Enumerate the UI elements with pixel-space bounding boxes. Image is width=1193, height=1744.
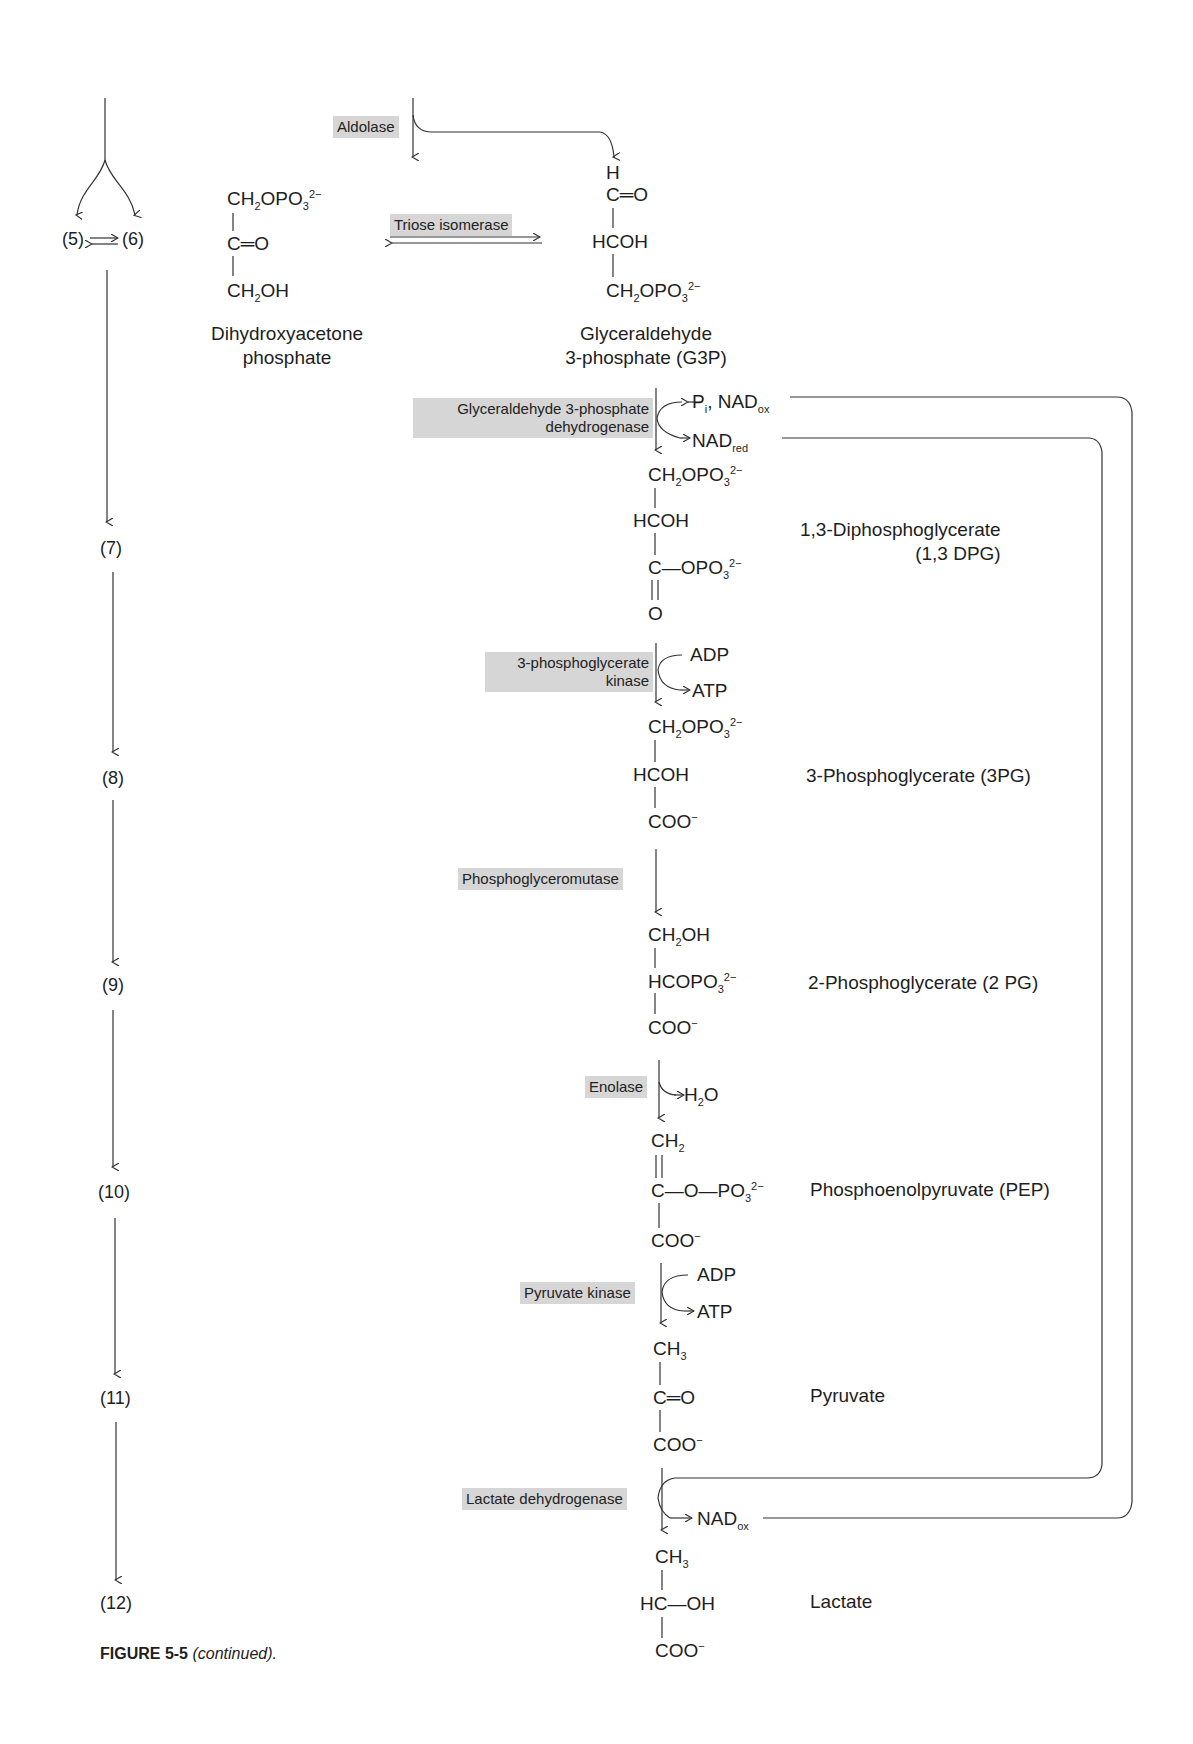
dhap-ch2oh: CH2OH <box>227 280 289 302</box>
g3p-name: Glyceraldehyde 3-phosphate (G3P) <box>548 322 744 370</box>
pep-coo: COO− <box>651 1230 701 1252</box>
lactate-name: Lactate <box>810 1590 872 1614</box>
pyruvate-name: Pyruvate <box>810 1384 885 1408</box>
pep-c-o-po3: C—O—PO32− <box>651 1180 764 1202</box>
pg3-ch2opo3: CH2OPO32− <box>648 716 742 738</box>
dpg-name: 1,3-Diphosphoglycerate (1,3 DPG) <box>800 518 1001 566</box>
g3p-ch2opo3: CH2OPO32− <box>606 280 700 302</box>
dpg-ch2opo3: CH2OPO32− <box>648 464 742 486</box>
step-9: (9) <box>102 975 124 996</box>
dpg-o: O <box>648 603 663 625</box>
dhap-name: Dihydroxyacetone phosphate <box>192 322 382 370</box>
enzyme-triose-isomerase: Triose isomerase <box>390 214 512 236</box>
pg2-hcopo3: HCOPO32− <box>648 971 736 993</box>
enzyme-g3p-dehydrogenase-line2: dehydrogenase <box>417 418 649 436</box>
cofactor-atp-1: ATP <box>692 680 728 702</box>
enzyme-aldolase: Aldolase <box>333 116 399 138</box>
cofactor-pi-nadox: Pi, NADox <box>692 391 769 413</box>
enzyme-pgk-line2: kinase <box>489 672 649 690</box>
pep-name: Phosphoenolpyruvate (PEP) <box>810 1178 1050 1202</box>
dpg-c-opo3: C—OPO32− <box>648 557 742 579</box>
pg2-ch2oh: CH2OH <box>648 924 710 946</box>
lactate-hc-oh: HC—OH <box>640 1593 715 1615</box>
dpg-hcoh: HCOH <box>633 510 689 532</box>
cofactor-nadred: NADred <box>692 430 748 452</box>
enzyme-pyruvate-kinase: Pyruvate kinase <box>520 1282 635 1304</box>
pep-ch2: CH2 <box>651 1130 685 1152</box>
enzyme-g3p-dehydrogenase-line1: Glyceraldehyde 3-phosphate <box>417 400 649 418</box>
pyruvate-ch3: CH3 <box>653 1338 687 1360</box>
pg3-coo: COO− <box>648 811 698 833</box>
caption-label: FIGURE 5-5 <box>100 1645 188 1662</box>
step-8: (8) <box>102 768 124 789</box>
cofactor-adp-2: ADP <box>697 1264 736 1286</box>
cofactor-adp-1: ADP <box>690 644 729 666</box>
g3p-hcoh: HCOH <box>592 231 648 253</box>
cofactor-h2o: H2O <box>684 1084 719 1106</box>
lactate-coo: COO− <box>655 1640 705 1662</box>
pyruvate-c-o: C═O <box>653 1387 695 1409</box>
dhap-ch2opo3: CH2OPO32− <box>227 188 321 210</box>
pg2-coo: COO− <box>648 1017 698 1039</box>
g3p-h: H <box>606 162 620 184</box>
lactate-ch3: CH3 <box>655 1546 689 1568</box>
step-12: (12) <box>100 1593 132 1614</box>
enzyme-pgk-line1: 3-phosphoglycerate <box>489 654 649 672</box>
step-5: (5) <box>62 229 84 250</box>
cofactor-nadox: NADox <box>697 1508 749 1530</box>
enzyme-enolase: Enolase <box>585 1076 647 1098</box>
pyruvate-coo: COO− <box>653 1434 703 1456</box>
step-7: (7) <box>100 538 122 559</box>
pg2-name: 2-Phosphoglycerate (2 PG) <box>808 971 1038 995</box>
g3p-c-o: C═O <box>606 184 648 206</box>
step-6: (6) <box>122 229 144 250</box>
enzyme-lactate-dehydrogenase: Lactate dehydrogenase <box>462 1488 627 1510</box>
step-11: (11) <box>100 1388 131 1409</box>
enzyme-phosphoglyceromutase: Phosphoglyceromutase <box>458 868 623 890</box>
cofactor-atp-2: ATP <box>697 1301 733 1323</box>
dhap-c-o: C═O <box>227 233 269 255</box>
step-10: (10) <box>98 1182 130 1203</box>
enzyme-g3p-dehydrogenase: Glyceraldehyde 3-phosphate dehydrogenase <box>413 398 653 438</box>
caption-note: (continued). <box>192 1645 277 1662</box>
enzyme-phosphoglycerate-kinase: 3-phosphoglycerate kinase <box>485 652 653 692</box>
pg3-hcoh: HCOH <box>633 764 689 786</box>
figure-caption: FIGURE 5-5 (continued). <box>100 1645 277 1663</box>
pg3-name: 3-Phosphoglycerate (3PG) <box>806 764 1031 788</box>
